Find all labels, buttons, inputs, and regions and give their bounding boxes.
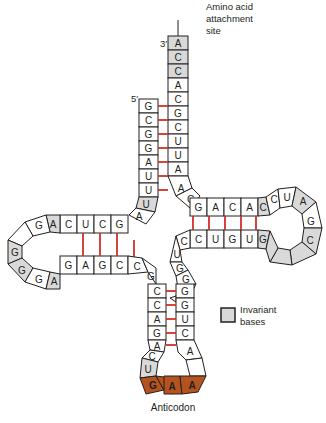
svg-text:G: G <box>176 263 184 274</box>
d-arm-top-strand: C U C G <box>60 215 128 233</box>
anticodon-arm-right-strand: G G U C <box>176 284 194 340</box>
svg-text:G: G <box>145 143 153 154</box>
svg-text:C: C <box>306 235 313 246</box>
svg-text:G: G <box>149 380 157 391</box>
svg-text:C: C <box>153 300 160 311</box>
svg-text:G: G <box>229 234 237 245</box>
svg-text:A: A <box>50 219 57 230</box>
svg-text:C: C <box>180 236 187 247</box>
svg-text:U: U <box>173 249 180 260</box>
svg-text:A: A <box>136 211 143 222</box>
svg-text:U: U <box>145 185 152 196</box>
d-arm-connector: U A <box>129 197 158 224</box>
svg-text:A: A <box>178 183 185 194</box>
d-to-anticodon-connector: C G <box>128 256 156 284</box>
svg-text:A: A <box>175 80 182 91</box>
svg-text:A: A <box>145 157 152 168</box>
svg-text:G: G <box>35 220 43 231</box>
svg-text:U: U <box>212 234 219 245</box>
svg-text:C: C <box>174 52 181 63</box>
svg-text:A: A <box>246 202 253 213</box>
svg-text:G: G <box>259 234 267 245</box>
d-arm-bottom-strand: G A G C <box>60 256 128 274</box>
svg-text:C: C <box>133 261 140 272</box>
svg-text:G: G <box>153 328 161 339</box>
amino-acid-site-line3: site <box>206 25 221 36</box>
acceptor-stem-base-pairs <box>158 106 168 190</box>
svg-text:C: C <box>270 194 277 205</box>
legend-label-line2: bases <box>240 316 266 327</box>
svg-text:U: U <box>82 219 89 230</box>
svg-text:C: C <box>99 219 106 230</box>
svg-text:A: A <box>154 314 161 325</box>
t-arm-bottom-strand: C U G U <box>190 230 258 248</box>
svg-text:G: G <box>174 108 182 119</box>
svg-text:G: G <box>307 216 315 227</box>
svg-text:G: G <box>18 265 26 276</box>
svg-text:U: U <box>181 314 188 325</box>
svg-text:G: G <box>147 271 155 282</box>
t-arm-top-strand: G A C A <box>190 198 258 216</box>
t-arm-base-pairs <box>193 216 256 230</box>
legend-invariant-swatch <box>221 308 235 322</box>
svg-text:A: A <box>175 164 182 175</box>
svg-text:G: G <box>11 247 19 258</box>
svg-text:A: A <box>175 38 182 49</box>
five-prime-label: 5′ <box>131 93 138 104</box>
svg-text:C: C <box>65 219 72 230</box>
svg-text:C: C <box>229 202 236 213</box>
svg-text:G: G <box>65 260 73 271</box>
svg-text:C: C <box>145 115 152 126</box>
d-loop: A G G G G A <box>8 215 60 289</box>
svg-text:U: U <box>283 192 290 203</box>
svg-text:C: C <box>116 260 123 271</box>
acceptor-stem-3prime-strand: A C C A C G C U U A <box>168 36 188 176</box>
svg-text:G: G <box>181 300 189 311</box>
svg-text:G: G <box>195 202 203 213</box>
trna-cloverleaf-diagram: 3′ Amino acid attachment site 5′ A C C A… <box>0 0 326 423</box>
svg-text:C: C <box>259 202 266 213</box>
svg-text:A: A <box>212 202 219 213</box>
svg-text:C: C <box>181 328 188 339</box>
svg-text:G: G <box>99 260 107 271</box>
acceptor-stem-5prime-strand: G C G G A U U <box>139 99 158 197</box>
svg-text:U: U <box>142 199 149 210</box>
svg-text:U: U <box>174 136 181 147</box>
svg-text:G: G <box>182 274 190 285</box>
svg-text:A: A <box>168 381 175 392</box>
svg-text:G: G <box>35 274 43 285</box>
svg-text:A: A <box>300 196 307 207</box>
amino-acid-site-line1: Amino acid <box>206 1 253 12</box>
anticodon-label: Anticodon <box>151 402 195 413</box>
anticodon-triplet: G A A <box>140 376 206 394</box>
svg-text:A: A <box>51 276 58 287</box>
svg-text:G: G <box>145 101 153 112</box>
t-loop: C U A G C <box>266 187 322 265</box>
svg-text:G: G <box>181 286 189 297</box>
svg-text:U: U <box>144 364 151 375</box>
svg-text:A: A <box>187 346 194 357</box>
anticodon-arm-left-strand: C C A G A <box>148 284 166 352</box>
svg-text:U: U <box>145 171 152 182</box>
svg-text:C: C <box>174 66 181 77</box>
svg-text:A: A <box>188 380 195 391</box>
svg-text:C: C <box>174 94 181 105</box>
svg-text:C: C <box>195 234 202 245</box>
svg-text:A: A <box>82 260 89 271</box>
svg-text:G: G <box>145 129 153 140</box>
amino-acid-site-line2: attachment <box>206 13 253 24</box>
svg-text:C: C <box>174 122 181 133</box>
legend: Invariant bases <box>221 304 277 327</box>
svg-text:C: C <box>153 286 160 297</box>
svg-text:U: U <box>174 150 181 161</box>
three-prime-label: 3′ <box>160 38 167 49</box>
svg-text:G: G <box>116 219 124 230</box>
svg-text:U: U <box>246 234 253 245</box>
legend-label-line1: Invariant <box>240 304 277 315</box>
